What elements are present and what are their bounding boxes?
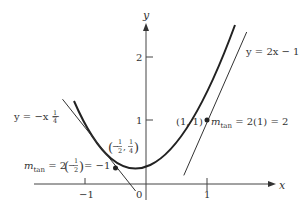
x-tick-label-neg1: −1: [79, 189, 94, 200]
slope-left-num: 1: [74, 157, 78, 165]
tangent-right-equation: y = 2x − 1: [245, 46, 300, 57]
tangent-left-frac-num: 1: [53, 109, 57, 117]
x-axis-arrow-icon: [268, 181, 276, 187]
slope-right-m: m: [211, 116, 220, 127]
slope-left-m: m: [24, 160, 33, 171]
slope-left-mid: = 2: [45, 160, 66, 171]
x-tick-label-1: 1: [204, 189, 210, 200]
point-left-x-num: 1: [118, 138, 122, 146]
point-left-x-den: 2: [118, 147, 122, 155]
slope-right-rest: = 2(1) = 2: [232, 116, 288, 127]
point-left-comma: ,: [123, 142, 126, 152]
x-tick-label-0: 0: [136, 189, 142, 200]
y-tick-label-1: 1: [136, 115, 142, 126]
slope-left-den: 2: [74, 166, 78, 174]
tangent-left-frac-den: 4: [53, 117, 57, 125]
slope-right-label: mtan = 2(1) = 2: [211, 116, 288, 130]
slope-left-sub: tan: [33, 166, 45, 174]
tangent-lines-diagram: x y −1 0 1 1 2 y = 2x − 1 (1, 1) mtan = …: [0, 0, 303, 208]
tangent-right-equation-text: y = 2x − 1: [245, 46, 300, 57]
point-left-y-num: 1: [129, 138, 133, 146]
tangent-point-right: [205, 118, 210, 123]
tangent-line-right: [184, 32, 247, 175]
y-tick-label-2: 2: [136, 52, 142, 63]
slope-right-sub: tan: [220, 122, 232, 130]
point-left-close-paren: ): [134, 140, 139, 155]
parabola-curve: [74, 25, 235, 169]
x-axis-label: x: [279, 179, 286, 192]
tangent-point-left: [113, 166, 118, 171]
point-right-label: (1, 1): [176, 116, 203, 127]
slope-left-rest: = −1: [84, 160, 110, 171]
slope-left-label: mtan = 2 ( − 1 2 ) = −1: [24, 157, 110, 174]
y-axis-label: y: [142, 9, 150, 22]
point-left-y-den: 4: [129, 147, 133, 155]
slope-left-main: mtan = 2: [24, 160, 66, 174]
point-left-label: ( − 1 2 , 1 4 ): [108, 138, 139, 155]
y-axis-arrow-icon: [143, 23, 149, 31]
